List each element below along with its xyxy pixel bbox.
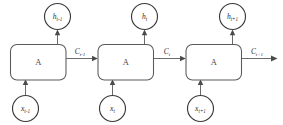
lstm-cell-label-1: A: [35, 57, 42, 67]
hidden-arrow-1: [55, 30, 60, 45]
lstm-cell-group-2: A Ct ht xt: [98, 4, 186, 122]
input-arrow-1: [23, 79, 28, 95]
lstm-unrolled-diagram: A Ct-1 ht-1 xt-1: [0, 0, 283, 125]
lstm-cell-group-1: A Ct-1 ht-1 xt-1: [11, 4, 98, 122]
diagram-canvas: A Ct-1 ht-1 xt-1: [0, 0, 283, 125]
hidden-arrow-2: [142, 30, 147, 45]
cell-state-label-2: Ct: [164, 47, 171, 57]
hidden-arrow-3: [230, 30, 235, 45]
cell-state-label-3: Ct+1: [251, 47, 263, 57]
lstm-cell-label-3: A: [211, 57, 218, 67]
input-arrow-2: [110, 79, 115, 95]
input-arrow-3: [198, 79, 203, 95]
lstm-cell-label-2: A: [123, 57, 130, 67]
cell-state-label-1: Ct-1: [75, 47, 86, 57]
lstm-cell-group-3: A Ct+1 ht+1 xt+1: [186, 4, 278, 122]
